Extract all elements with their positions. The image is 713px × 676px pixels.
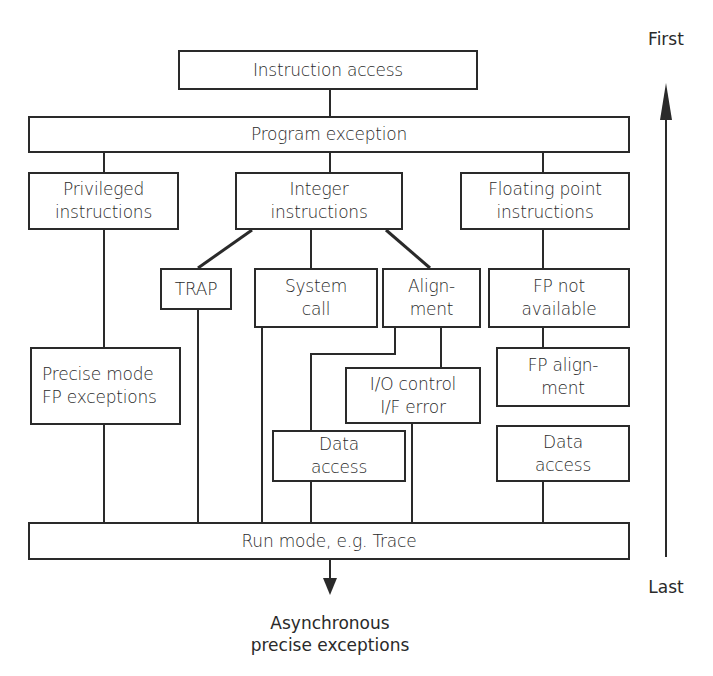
node-instruction-access: Instruction access xyxy=(178,50,478,90)
node-data-access-integer: Data access xyxy=(272,430,406,482)
node-alignment: Align- ment xyxy=(382,268,481,328)
node-precise-mode-fp-exceptions: Precise mode FP exceptions xyxy=(30,347,181,425)
node-data-access-fp: Data access xyxy=(496,425,630,482)
node-fp-not-available: FP not available xyxy=(488,268,630,328)
node-floating-point-instructions: Floating point instructions xyxy=(460,172,630,230)
node-privileged-instructions: Privileged instructions xyxy=(28,172,179,230)
node-run-mode: Run mode, e.g. Trace xyxy=(28,522,630,560)
connector-lines xyxy=(0,0,713,676)
node-trap: TRAP xyxy=(160,268,232,310)
priority-first-label: First xyxy=(641,28,691,50)
priority-arrowhead xyxy=(660,83,672,120)
output-arrowhead xyxy=(323,578,337,595)
priority-last-label: Last xyxy=(641,576,691,598)
node-integer-instructions: Integer instructions xyxy=(235,172,403,230)
node-program-exception: Program exception xyxy=(28,116,630,153)
node-io-control-error: I/O control I/F error xyxy=(345,367,481,424)
node-fp-alignment: FP align- ment xyxy=(496,347,630,407)
output-label: Asynchronous precise exceptions xyxy=(200,612,460,656)
node-system-call: System call xyxy=(254,268,378,328)
